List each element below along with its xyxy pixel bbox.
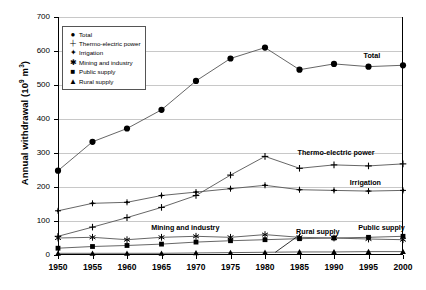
series-irrigation bbox=[55, 182, 406, 214]
legend-item-label: Public supply bbox=[79, 69, 115, 75]
series-thermo-electric-power bbox=[55, 153, 407, 240]
legend-item-public-supply: ■Public supply bbox=[67, 68, 141, 77]
series-annotation-public: Public supply bbox=[358, 223, 405, 232]
legend-marker-icon: ● bbox=[67, 31, 79, 39]
legend-item-total: ●Total bbox=[67, 30, 141, 39]
legend: ●Total＋Thermo-electric power✦Irrigation✱… bbox=[62, 26, 146, 90]
water-withdrawal-line-chart: Annual withdrawal (109 m3) 0100200300400… bbox=[0, 0, 426, 290]
legend-item-label: Irrigation bbox=[79, 50, 103, 56]
legend-item-irrigation: ✦Irrigation bbox=[67, 49, 141, 58]
legend-marker-icon: ▲ bbox=[67, 78, 79, 86]
legend-item-label: Thermo-electric power bbox=[79, 41, 141, 47]
legend-item-mining-and-industry: ✱Mining and industry bbox=[67, 58, 141, 67]
series-annotation-thermo: Thermo-electric power bbox=[298, 148, 375, 157]
legend-item-label: Rural supply bbox=[79, 79, 113, 85]
legend-item-label: Total bbox=[79, 32, 92, 38]
legend-item-thermo-electric-power: ＋Thermo-electric power bbox=[67, 39, 141, 48]
legend-marker-icon: ✦ bbox=[67, 49, 79, 57]
legend-marker-icon: ＋ bbox=[67, 40, 79, 48]
series-annotation-irrigation: Irrigation bbox=[350, 178, 381, 187]
legend-marker-icon: ✱ bbox=[67, 59, 79, 67]
legend-item-rural-supply: ▲Rural supply bbox=[67, 77, 141, 86]
series-annotation-total: Total bbox=[364, 51, 381, 60]
series-annotation-rural: Rural supply bbox=[296, 227, 340, 236]
legend-marker-icon: ■ bbox=[67, 68, 79, 76]
series-annotation-mining: Mining and industry bbox=[151, 223, 219, 232]
legend-item-label: Mining and industry bbox=[79, 60, 133, 66]
series-rural-supply bbox=[55, 249, 406, 256]
